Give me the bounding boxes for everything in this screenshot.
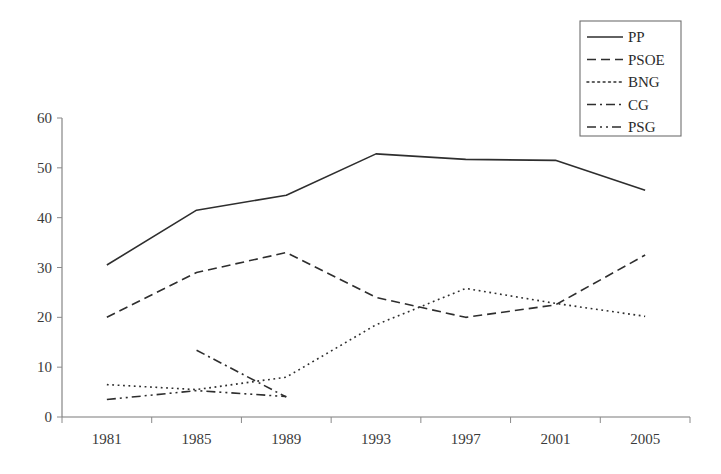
x-axis-tick-label: 1985 bbox=[182, 431, 212, 447]
chart-canvas: 0102030405060 19811985198919931997200120… bbox=[0, 0, 721, 474]
x-axis-tick-label: 2001 bbox=[540, 431, 570, 447]
x-axis: 1981198519891993199720012005 bbox=[62, 417, 690, 447]
line-chart: 0102030405060 19811985198919931997200120… bbox=[0, 0, 721, 474]
series-lines bbox=[107, 154, 645, 400]
legend-label-bng: BNG bbox=[628, 74, 660, 90]
y-axis-tick-label: 10 bbox=[37, 359, 52, 375]
legend-label-psg: PSG bbox=[628, 119, 656, 135]
x-axis-tick-label: 1989 bbox=[271, 431, 301, 447]
y-axis-tick-label: 50 bbox=[37, 160, 52, 176]
series-line-bng bbox=[107, 288, 645, 389]
y-axis-tick-label: 20 bbox=[37, 309, 52, 325]
y-axis-tick-label: 60 bbox=[37, 110, 52, 126]
x-axis-tick-label: 2005 bbox=[630, 431, 660, 447]
legend-label-cg: CG bbox=[628, 97, 649, 113]
x-axis-tick-label: 1993 bbox=[361, 431, 391, 447]
y-axis-tick-label: 30 bbox=[37, 260, 52, 276]
y-axis: 0102030405060 bbox=[37, 110, 62, 425]
x-axis-tick-label: 1981 bbox=[92, 431, 122, 447]
series-line-psg bbox=[107, 391, 286, 400]
x-axis-tick-label: 1997 bbox=[451, 431, 482, 447]
series-line-cg bbox=[197, 350, 287, 397]
series-line-pp bbox=[107, 154, 645, 265]
legend-label-pp: PP bbox=[628, 29, 645, 45]
chart-legend: PPPSOEBNGCGPSG bbox=[580, 21, 681, 136]
y-axis-tick-label: 0 bbox=[45, 409, 53, 425]
legend-label-psoe: PSOE bbox=[628, 52, 665, 68]
series-line-psoe bbox=[107, 253, 645, 318]
y-axis-tick-label: 40 bbox=[37, 210, 52, 226]
